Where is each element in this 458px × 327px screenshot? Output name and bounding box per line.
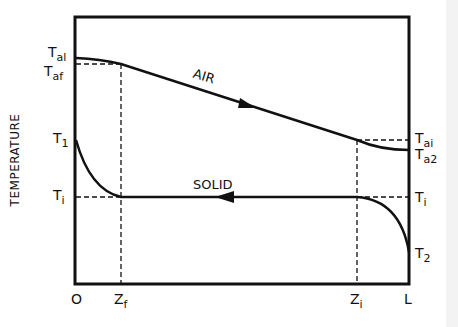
right-temperature-labels: Tai Ta2 Ti T2: [414, 130, 437, 265]
svg-text:L: L: [404, 291, 412, 307]
svg-text:T2: T2: [414, 245, 431, 265]
svg-text:Tal: Tal: [47, 44, 66, 64]
solid-curve: [76, 140, 409, 252]
left-temperature-labels: Tal Taf T1 Ti: [43, 44, 69, 207]
svg-text:O: O: [71, 291, 82, 307]
svg-text:Zf: Zf: [114, 291, 129, 311]
dashed-guides: [76, 64, 409, 284]
x-axis-labels: O Zf Zi L: [71, 291, 412, 311]
svg-text:T1: T1: [52, 130, 69, 150]
solid-arrow-icon: [215, 191, 234, 203]
svg-text:Ti: Ti: [414, 189, 427, 209]
svg-text:Ti: Ti: [52, 187, 65, 207]
svg-text:Taf: Taf: [43, 63, 64, 83]
air-arrow-icon: [238, 98, 256, 108]
air-label: AIR: [191, 66, 216, 87]
diagram-canvas: AIR SOLID Tal Taf T1 Ti Tai Ta2 Ti T2 O …: [0, 0, 458, 327]
svg-text:Zi: Zi: [350, 291, 363, 311]
plot-frame: [75, 17, 409, 284]
solid-label: SOLID: [193, 177, 233, 192]
